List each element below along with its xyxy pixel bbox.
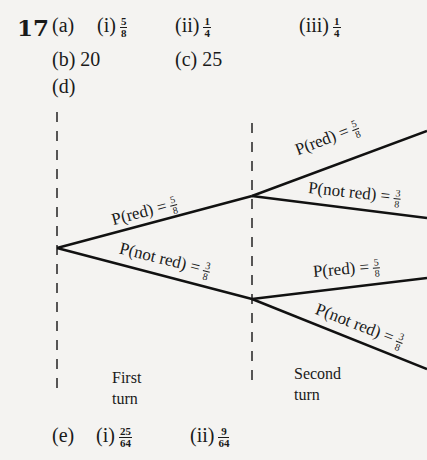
fraction: 2564: [119, 426, 132, 449]
second-turn-label: Second turn: [294, 363, 341, 405]
part-a-label: (a): [52, 14, 74, 37]
part-a-i: (i)58: [97, 14, 127, 39]
part-e-i: (i)2564: [96, 424, 132, 449]
part-c-label: (c): [175, 48, 197, 70]
fraction: 964: [218, 426, 229, 449]
part-e-label: (e): [52, 424, 74, 447]
part-b-value: 20: [80, 48, 100, 70]
fraction: 14: [333, 16, 341, 39]
part-c: (c) 25: [175, 48, 222, 71]
first-turn-label: First turn: [112, 367, 141, 409]
part-a-iii: (iii)14: [299, 14, 341, 39]
part-b: (b) 20: [52, 48, 100, 71]
part-c-value: 25: [202, 48, 222, 70]
part-a-iii-label: (iii): [299, 14, 329, 36]
part-d-label: (d): [52, 75, 75, 98]
part-a-i-label: (i): [97, 14, 116, 36]
part-b-label: (b): [52, 48, 75, 70]
part-a-ii: (ii)14: [175, 14, 211, 39]
part-a-ii-label: (ii): [175, 14, 199, 36]
fraction: 14: [203, 16, 211, 39]
question-number: 17: [17, 14, 49, 41]
fraction: 58: [120, 16, 128, 39]
part-e-ii: (ii)964: [190, 424, 229, 449]
